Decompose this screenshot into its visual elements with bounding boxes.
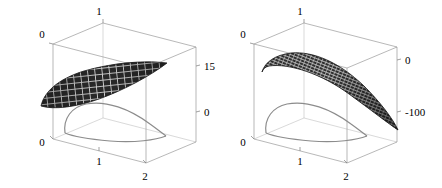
- x-tick-0: [50, 136, 53, 139]
- label-x-mid: 1: [297, 155, 303, 167]
- box-edge-bottom-back-right: [304, 118, 397, 142]
- x-tick-0: [251, 136, 254, 139]
- base-contour-projection: [266, 103, 367, 142]
- left-surface-plot: 1 0 15 0 0 1 2: [0, 0, 221, 188]
- box-edge-back-top: [254, 23, 397, 47]
- figure-container: 1 0 15 0 0 1 2: [0, 0, 442, 188]
- label-x-origin: 0: [240, 136, 246, 148]
- box-edge-bottom-right: [347, 142, 397, 163]
- label-z-top: 0: [405, 54, 411, 66]
- surface-mesh: [246, 40, 411, 145]
- box-edge-bottom-back-left: [254, 118, 304, 139]
- label-x-mid: 1: [96, 155, 102, 167]
- label-y-apex: 1: [96, 5, 102, 17]
- label-x-origin: 0: [39, 136, 45, 148]
- y-tick-0: [250, 43, 254, 44]
- label-z-bottom: 0: [204, 106, 210, 118]
- box-edge-bottom-right: [146, 142, 196, 163]
- z-tick-15: [196, 65, 200, 66]
- box-edge-bottom-back-right: [103, 118, 196, 142]
- z-tick-0: [397, 59, 401, 60]
- box-edge-back-top: [53, 23, 196, 47]
- contour-upper-arc: [266, 103, 367, 136]
- y-tick-0: [49, 43, 53, 44]
- label-y-apex: 1: [297, 5, 303, 17]
- right-surface-plot: 1 0 0 -100 0 1 2: [221, 0, 442, 188]
- contour-lower-arc: [266, 133, 367, 142]
- z-tick-0: [196, 111, 200, 112]
- label-x-max: 2: [343, 170, 349, 182]
- label-y-back: 0: [240, 28, 246, 40]
- contour-upper-arc: [65, 103, 166, 136]
- label-y-back: 0: [39, 28, 45, 40]
- surface-mesh: [30, 50, 190, 125]
- box-edge-bottom-back-left: [53, 118, 103, 139]
- label-z-bottom: -100: [405, 106, 426, 118]
- box-edge-right-top: [347, 47, 397, 68]
- z-tick--100: [397, 111, 401, 112]
- label-z-top: 15: [204, 60, 216, 72]
- contour-lower-arc: [65, 133, 166, 142]
- base-contour-projection: [65, 103, 166, 142]
- label-x-max: 2: [142, 170, 148, 182]
